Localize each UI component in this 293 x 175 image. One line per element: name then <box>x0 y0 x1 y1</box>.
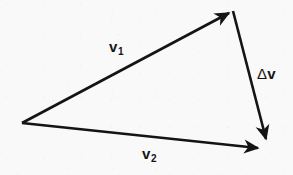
vector-triangle-figure: v1 v2 Δv <box>0 0 293 175</box>
vector-label-v2: v2 <box>142 146 156 161</box>
vector-label-delta-v: Δv <box>257 66 276 81</box>
vector-label-v1: v1 <box>109 39 123 54</box>
vector-label-v2-subscript: 2 <box>151 153 157 164</box>
vector-arrow-v1 <box>22 13 229 123</box>
delta-symbol-icon: Δ <box>257 65 267 82</box>
vector-label-v2-base: v <box>142 145 151 162</box>
vector-label-v1-subscript: 1 <box>118 46 124 57</box>
vector-label-delta-v-base: v <box>267 65 276 82</box>
vector-label-v1-base: v <box>109 38 118 55</box>
vector-arrow-v2 <box>22 123 258 148</box>
